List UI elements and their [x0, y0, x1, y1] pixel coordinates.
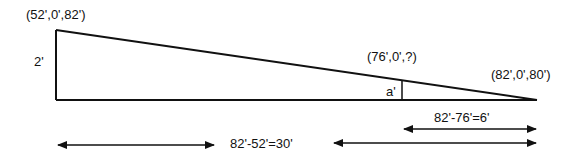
slope-diagram: (52',0',82') 2' (76',0',?) a' (82',0',80… — [0, 0, 581, 161]
low-end-point-label: (82',0',80') — [491, 68, 550, 81]
slope-edge — [56, 30, 537, 100]
partial-run-label: 82'-76'=6' — [434, 111, 490, 124]
mid-point-label: (76',0',?) — [367, 50, 417, 63]
total-run-label: 82'-52'=30' — [230, 137, 293, 150]
left-height-label: 2' — [34, 55, 44, 68]
high-end-point-label: (52',0',82') — [26, 8, 85, 21]
unknown-height-label: a' — [386, 85, 396, 98]
